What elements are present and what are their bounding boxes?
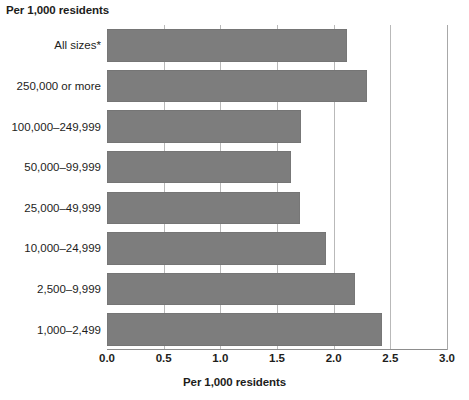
top-left-axis-label: Per 1,000 residents [6,4,109,16]
bar-series [107,25,447,350]
category-axis-labels: All sizes*250,000 or more100,000–249,999… [0,25,101,350]
category-label: 250,000 or more [0,66,101,107]
bar [107,151,291,184]
category-label: 100,000–249,999 [0,106,101,147]
category-label: 2,500–9,999 [0,269,101,310]
bar-row [107,110,447,143]
x-tick-2.0: 2.0 [326,352,342,364]
x-axis-line [107,349,447,350]
x-tick-0.0: 0.0 [99,352,115,364]
x-tick-0.5: 0.5 [156,352,172,364]
bar [107,70,367,103]
bar-row [107,273,447,306]
bar [107,273,355,306]
category-label: 50,000–99,999 [0,147,101,188]
bar-row [107,192,447,225]
category-label: All sizes* [0,25,101,66]
bar [107,192,300,225]
bar-row [107,70,447,103]
bar [107,313,382,346]
bar [107,110,301,143]
bar-chart: Per 1,000 residents All sizes*250,000 or… [0,0,469,400]
x-tick-2.5: 2.5 [382,352,398,364]
x-tick-1.5: 1.5 [269,352,285,364]
bar-row [107,151,447,184]
x-axis-title: Per 1,000 residents [0,376,469,388]
x-tick-labels: 0.00.51.01.52.02.53.0 [0,352,469,370]
bar-row [107,313,447,346]
category-label: 1,000–2,499 [0,309,101,350]
category-label: 10,000–24,999 [0,228,101,269]
plot-area [107,25,447,350]
bar-row [107,232,447,265]
bar-row [107,29,447,62]
x-tick-3.0: 3.0 [439,352,455,364]
bar [107,29,347,62]
x-tick-1.0: 1.0 [212,352,228,364]
bar [107,232,326,265]
category-label: 25,000–49,999 [0,188,101,229]
gridline-3.0 [447,25,448,350]
